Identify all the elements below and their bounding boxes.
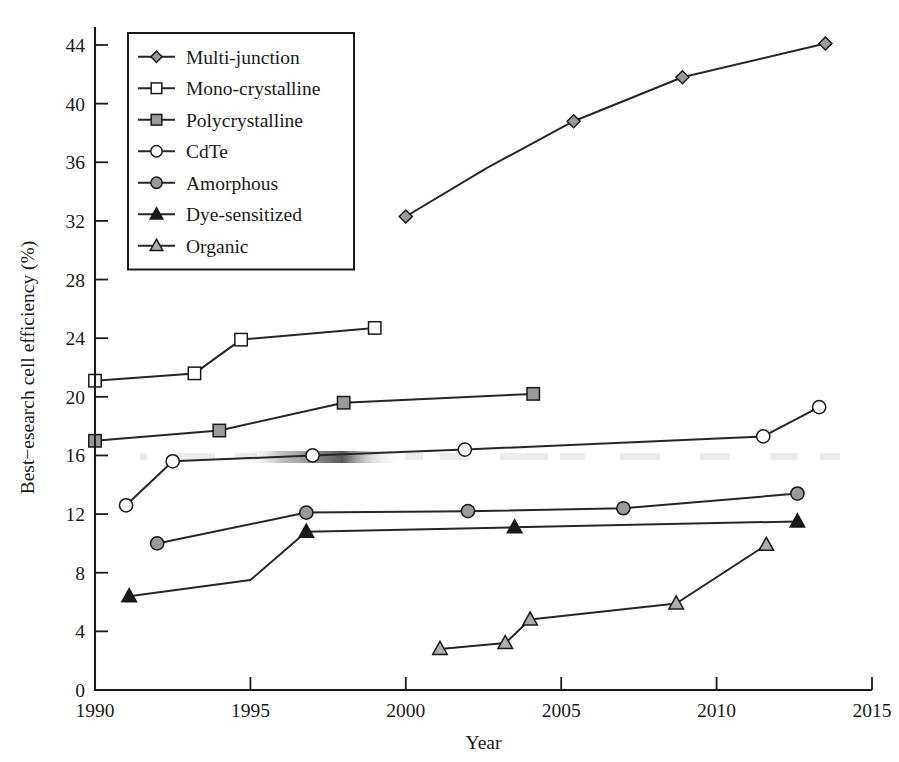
data-point-marker: [151, 146, 162, 157]
y-axis-title: Best−esearch cell efficiency (%): [17, 241, 39, 495]
data-point-marker: [369, 322, 381, 334]
x-tick-label: 1990: [76, 700, 115, 721]
data-point-marker: [306, 449, 319, 462]
y-tick-label: 4: [75, 621, 85, 642]
x-tick-label: 2000: [386, 700, 425, 721]
data-point-marker: [527, 388, 539, 400]
data-point-marker: [757, 430, 770, 443]
x-tick-label: 1995: [231, 700, 270, 721]
data-point-marker: [166, 455, 179, 468]
legend-item-label: Organic: [186, 236, 249, 257]
y-tick-label: 44: [66, 35, 86, 56]
data-point-marker: [813, 400, 826, 413]
y-tick-label: 40: [66, 94, 86, 115]
data-point-marker: [235, 333, 247, 345]
y-tick-label: 24: [66, 328, 86, 349]
legend-item-label: Polycrystalline: [186, 110, 303, 131]
data-point-marker: [188, 367, 200, 379]
y-tick-label: 28: [66, 270, 86, 291]
x-tick-label: 2015: [853, 700, 892, 721]
x-axis-title: Year: [466, 732, 502, 753]
legend-item-label: Multi-junction: [186, 47, 300, 68]
chart-figure: 0481216202428323640441990199520002005201…: [0, 0, 899, 762]
data-point-marker: [151, 83, 162, 94]
y-tick-label: 8: [75, 563, 85, 584]
data-point-marker: [617, 502, 630, 515]
data-point-marker: [151, 177, 162, 188]
x-tick-label: 2010: [697, 700, 736, 721]
data-point-marker: [119, 499, 132, 512]
data-point-marker: [461, 505, 474, 518]
legend-item-label: Dye-sensitized: [186, 204, 302, 225]
data-point-marker: [300, 506, 313, 519]
legend-item-label: Amorphous: [186, 173, 278, 194]
y-tick-label: 20: [66, 387, 86, 408]
y-tick-label: 36: [66, 152, 86, 173]
y-tick-label: 16: [66, 445, 86, 466]
legend[interactable]: Multi-junctionMono-crystallinePolycrysta…: [128, 33, 354, 270]
x-tick-label: 2005: [542, 700, 581, 721]
chart-canvas: 0481216202428323640441990199520002005201…: [0, 0, 899, 762]
data-point-marker: [213, 424, 225, 436]
data-point-marker: [791, 487, 804, 500]
y-tick-label: 12: [66, 504, 86, 525]
data-point-marker: [337, 396, 349, 408]
data-point-marker: [151, 537, 164, 550]
legend-item-label: CdTe: [186, 141, 228, 162]
legend-item-label: Mono-crystalline: [186, 78, 320, 99]
data-point-marker: [151, 114, 162, 125]
data-point-marker: [458, 443, 471, 456]
y-tick-label: 32: [66, 211, 86, 232]
y-tick-label: 0: [75, 680, 85, 701]
